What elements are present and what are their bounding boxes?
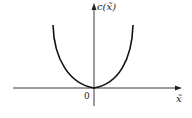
y-axis-arrow-icon [92, 3, 97, 10]
x-axis-arrow-icon [175, 86, 182, 91]
plot-canvas [0, 0, 192, 118]
convex-curve [53, 25, 133, 88]
origin-label: 0 [84, 92, 90, 101]
y-axis-label: c(x̃) [97, 2, 116, 12]
x-axis-label: x̃ [176, 94, 182, 104]
